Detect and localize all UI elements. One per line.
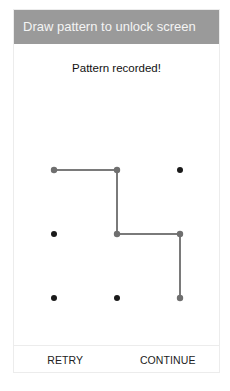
dialog-footer: RETRY CONTINUE bbox=[14, 345, 219, 374]
pattern-dot-6[interactable] bbox=[177, 231, 183, 237]
pattern-dot-1[interactable] bbox=[51, 167, 57, 173]
pattern-dot-4[interactable] bbox=[51, 231, 57, 237]
pattern-dot-8[interactable] bbox=[114, 295, 120, 301]
pattern-dot-2[interactable] bbox=[114, 167, 120, 173]
pattern-lock-dialog: Draw pattern to unlock screen Pattern re… bbox=[13, 9, 220, 373]
pattern-grid[interactable] bbox=[14, 10, 221, 345]
pattern-dot-7[interactable] bbox=[51, 295, 57, 301]
pattern-dot-3[interactable] bbox=[177, 167, 183, 173]
pattern-dot-9[interactable] bbox=[177, 295, 183, 301]
pattern-dot-5[interactable] bbox=[114, 231, 120, 237]
continue-button[interactable]: CONTINUE bbox=[117, 346, 220, 374]
retry-button[interactable]: RETRY bbox=[14, 346, 117, 374]
